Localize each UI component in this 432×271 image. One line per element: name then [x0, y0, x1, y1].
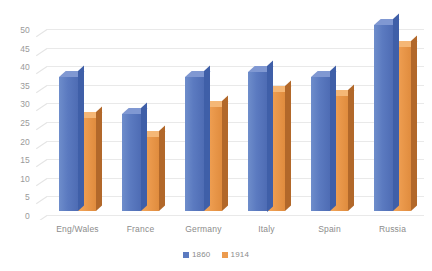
x-axis-categories: Eng/WalesFranceGermanyItalySpainRussia [46, 224, 424, 234]
x-axis-label-italy: Italy [235, 224, 298, 234]
bar-group-italy [235, 20, 298, 216]
legend-label-1860: 1860 [192, 250, 211, 259]
bar-1860-russia[interactable] [374, 25, 393, 211]
bar-group-russia [361, 20, 424, 216]
bar-group-france [109, 20, 172, 216]
bar-group-spain [298, 20, 361, 216]
bar-1860-germany[interactable] [185, 77, 204, 211]
bar-1860-italy[interactable] [248, 72, 267, 212]
y-axis-tick-20: 20 [2, 137, 30, 146]
x-axis-label-spain: Spain [298, 224, 361, 234]
x-axis-label-eng-wales: Eng/Wales [46, 224, 109, 234]
x-axis-label-germany: Germany [172, 224, 235, 234]
x-axis-label-russia: Russia [361, 224, 424, 234]
bar-groups [46, 20, 424, 216]
y-axis-tick-40: 40 [2, 63, 30, 72]
y-axis-tick-15: 15 [2, 156, 30, 165]
bar-group-eng-wales [46, 20, 109, 216]
y-axis-tick-5: 5 [2, 193, 30, 202]
y-axis-tick-25: 25 [2, 119, 30, 128]
x-axis-label-france: France [109, 224, 172, 234]
chart-legend: 18601914 [0, 250, 432, 259]
y-axis: 50454035302520151050 [0, 20, 30, 220]
bar-1860-eng-wales[interactable] [59, 77, 78, 211]
y-axis-tick-30: 30 [2, 100, 30, 109]
legend-swatch-1860 [183, 252, 189, 258]
legend-swatch-1914 [222, 252, 228, 258]
legend-item-1914[interactable]: 1914 [222, 250, 250, 259]
y-axis-tick-0: 0 [2, 212, 30, 221]
y-axis-tick-10: 10 [2, 175, 30, 184]
bar-1860-france[interactable] [122, 114, 141, 211]
y-axis-tick-45: 45 [2, 44, 30, 53]
y-axis-tick-50: 50 [2, 26, 30, 35]
bar-chart: 50454035302520151050 Eng/WalesFranceGerm… [0, 0, 432, 271]
legend-item-1860[interactable]: 1860 [183, 250, 211, 259]
bar-group-germany [172, 20, 235, 216]
y-axis-tick-35: 35 [2, 82, 30, 91]
bar-1860-spain[interactable] [311, 77, 330, 211]
legend-label-1914: 1914 [231, 250, 250, 259]
